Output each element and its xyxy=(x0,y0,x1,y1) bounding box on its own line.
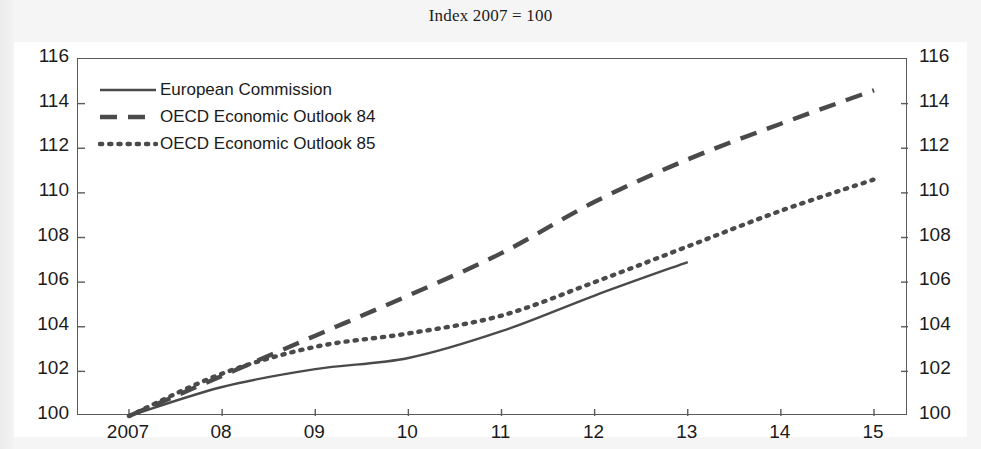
y-tick-label-left: 104 xyxy=(11,313,69,335)
chart-title: Index 2007 = 100 xyxy=(0,6,981,26)
legend-label: OECD Economic Outlook 85 xyxy=(160,134,375,154)
x-tick-label: 2007 xyxy=(88,421,168,443)
y-tick-label-right: 108 xyxy=(919,224,977,246)
x-tick-label: 11 xyxy=(461,421,541,443)
chart-page: Index 2007 = 100 10010210410610811011211… xyxy=(0,0,981,449)
y-tick-label-right: 106 xyxy=(919,268,977,290)
y-tick-label-left: 100 xyxy=(11,402,69,424)
y-tick-label-left: 110 xyxy=(11,179,69,201)
legend-label: OECD Economic Outlook 84 xyxy=(160,107,375,127)
x-tick-label: 15 xyxy=(833,421,913,443)
y-tick-label-left: 102 xyxy=(11,357,69,379)
y-tick-label-left: 116 xyxy=(11,45,69,67)
y-tick-label-right: 102 xyxy=(919,357,977,379)
x-tick-label: 10 xyxy=(367,421,447,443)
y-tick-label-right: 112 xyxy=(919,134,977,156)
legend-swatch-dashed-icon xyxy=(98,107,160,127)
y-tick-label-left: 112 xyxy=(11,134,69,156)
chart-legend: European CommissionOECD Economic Outlook… xyxy=(98,76,428,157)
x-tick-label: 13 xyxy=(647,421,727,443)
y-tick-label-right: 114 xyxy=(919,90,977,112)
legend-item[interactable]: OECD Economic Outlook 84 xyxy=(98,103,428,130)
y-tick-label-left: 114 xyxy=(11,90,69,112)
legend-swatch-dotted-icon xyxy=(98,134,160,154)
series-line-3 xyxy=(129,179,874,416)
y-tick-label-left: 108 xyxy=(11,224,69,246)
x-tick-label: 12 xyxy=(554,421,634,443)
y-tick-label-right: 116 xyxy=(919,45,977,67)
legend-label: European Commission xyxy=(160,80,332,100)
x-tick-label: 09 xyxy=(274,421,354,443)
y-tick-label-right: 104 xyxy=(919,313,977,335)
y-tick-label-right: 100 xyxy=(919,402,977,424)
series-line-1 xyxy=(129,262,688,416)
y-tick-label-right: 110 xyxy=(919,179,977,201)
x-tick-label: 14 xyxy=(740,421,820,443)
x-tick-label: 08 xyxy=(181,421,261,443)
legend-item[interactable]: OECD Economic Outlook 85 xyxy=(98,130,428,157)
legend-swatch-solid-icon xyxy=(98,80,160,100)
legend-item[interactable]: European Commission xyxy=(98,76,428,103)
y-tick-label-left: 106 xyxy=(11,268,69,290)
